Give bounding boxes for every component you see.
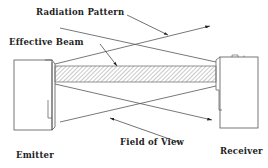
emitter-housing (14, 60, 55, 130)
label-radiation-pattern: Radiation Pattern (36, 7, 124, 17)
effective-beam (55, 66, 216, 82)
label-emitter: Emitter (16, 150, 54, 160)
label-receiver: Receiver (220, 146, 263, 156)
label-field-of-view: Field of View (120, 137, 184, 147)
label-effective-beam: Effective Beam (9, 37, 84, 47)
receiver-housing (216, 55, 258, 128)
